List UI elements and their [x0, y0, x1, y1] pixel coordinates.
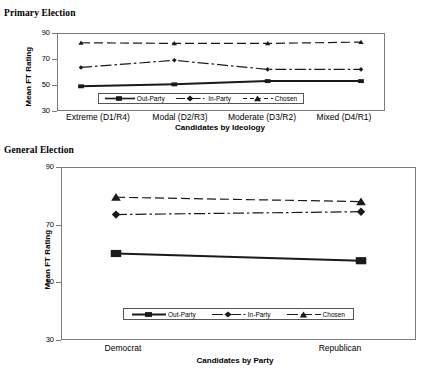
primary-election-chart: Mean FT Rating 90 70 50 30 Out-Party In-…	[0, 0, 427, 130]
data-point	[79, 65, 84, 70]
general-xtick-1: Republican	[295, 343, 385, 353]
data-point	[172, 58, 177, 63]
in-party-line-sample	[176, 94, 206, 103]
in-party-line-sample	[212, 310, 246, 319]
general-legend: Out-Party In-Party Chosen	[123, 308, 354, 320]
primary-xtick-3: Mixed (D4/R1)	[303, 112, 385, 122]
series-line-chosen	[81, 42, 361, 43]
data-point	[78, 84, 84, 88]
general-legend-label-out-party: Out-Party	[168, 311, 196, 318]
chosen-line-sample	[287, 310, 321, 319]
primary-xtick-0: Extreme (D1/R4)	[57, 112, 139, 122]
out-party-line-sample	[105, 94, 135, 103]
general-legend-in-party: In-Party	[212, 310, 271, 319]
primary-ytick-90: 90	[36, 28, 50, 37]
series-line-in-party	[81, 60, 361, 69]
series-line-in-party	[116, 212, 361, 215]
series-line-out-party	[81, 81, 361, 86]
primary-ytick-30: 30	[36, 106, 50, 115]
primary-legend: Out-Party In-Party Chosen	[98, 93, 304, 104]
general-legend-out-party: Out-Party	[132, 310, 196, 319]
series-line-out-party	[116, 254, 361, 261]
data-point	[265, 67, 270, 72]
primary-legend-in-party: In-Party	[176, 94, 231, 103]
data-point	[358, 79, 364, 83]
data-point	[265, 79, 271, 83]
data-point	[357, 207, 365, 215]
primary-x-axis-title: Candidates by Ideology	[105, 123, 335, 132]
data-point	[112, 210, 120, 218]
general-xtick-0: Democrat	[78, 343, 168, 353]
data-point	[356, 257, 367, 264]
general-ytick-30: 30	[40, 335, 54, 344]
general-legend-label-chosen: Chosen	[323, 311, 345, 318]
primary-y-axis-title: Mean FT Rating	[24, 35, 33, 107]
general-ytick-90: 90	[40, 162, 54, 171]
primary-legend-label-chosen: Chosen	[275, 95, 297, 102]
chosen-line-sample	[243, 94, 273, 103]
out-party-line-sample	[132, 310, 166, 319]
general-ytick-70: 70	[40, 220, 54, 229]
primary-xtick-1: Modal (D2/R3)	[139, 112, 221, 122]
primary-legend-label-out-party: Out-Party	[137, 95, 165, 102]
general-election-chart: Mean FT Rating 90 70 50 30 Out-Party In-…	[0, 140, 427, 372]
general-x-axis-title: Candidates by Party	[120, 356, 350, 365]
primary-legend-chosen: Chosen	[243, 94, 297, 103]
general-ytick-50: 50	[40, 277, 54, 286]
primary-legend-out-party: Out-Party	[105, 94, 165, 103]
general-ytick-mark-30	[56, 340, 61, 341]
series-line-chosen	[116, 197, 361, 201]
data-point	[359, 67, 364, 72]
primary-ytick-50: 50	[36, 80, 50, 89]
data-point	[171, 82, 177, 86]
general-legend-label-in-party: In-Party	[248, 311, 271, 318]
data-point	[111, 250, 122, 257]
primary-legend-label-in-party: In-Party	[208, 95, 231, 102]
primary-ytick-70: 70	[36, 54, 50, 63]
general-legend-chosen: Chosen	[287, 310, 345, 319]
primary-xtick-2: Moderate (D3/R2)	[221, 112, 303, 122]
